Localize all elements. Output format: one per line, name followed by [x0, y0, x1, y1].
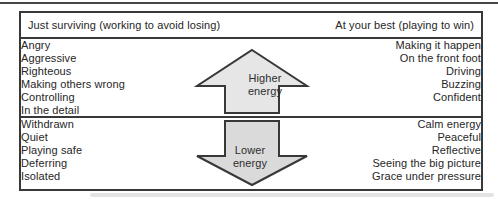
higher-energy-label: Higher energy	[225, 72, 305, 98]
list-item: Reflective	[372, 144, 481, 157]
header-at-your-best: At your best (playing to win)	[335, 19, 474, 31]
list-item: Peaceful	[372, 131, 481, 144]
list-item: In the detail	[21, 104, 125, 117]
list-item: Quiet	[21, 131, 82, 144]
list-item: Playing safe	[21, 144, 82, 157]
list-item: On the front foot	[396, 52, 481, 65]
list-item: Making others wrong	[21, 78, 125, 91]
lower-energy-right-list: Calm energy Peaceful Reflective Seeing t…	[372, 118, 481, 189]
list-item: Confident	[396, 91, 481, 104]
top-rule-divider	[0, 2, 498, 4]
list-item: Grace under pressure	[372, 170, 481, 183]
lower-energy-left-list: Withdrawn Quiet Playing safe Deferring I…	[21, 118, 82, 189]
figure-frame: Just surviving (working to avoid losing)…	[19, 11, 483, 191]
list-item: Controlling	[21, 91, 125, 104]
header-just-surviving: Just surviving (working to avoid losing)	[28, 19, 220, 31]
lower-energy-label-line1: Lower	[210, 144, 290, 157]
list-item: Buzzing	[396, 78, 481, 91]
higher-energy-left-list: Angry Aggressive Righteous Making others…	[21, 39, 125, 116]
higher-energy-right-list: Making it happen On the front foot Drivi…	[396, 39, 481, 116]
list-item: Righteous	[21, 65, 125, 78]
list-item: Seeing the big picture	[372, 157, 481, 170]
list-item: Angry	[21, 39, 125, 52]
lower-energy-label-line2: energy	[210, 157, 290, 170]
list-item: Aggressive	[21, 52, 125, 65]
higher-energy-label-line2: energy	[225, 85, 305, 98]
figure-energy-diagram: Just surviving (working to avoid losing)…	[0, 0, 498, 199]
list-item: Deferring	[21, 157, 82, 170]
list-item: Isolated	[21, 170, 82, 183]
list-item: Calm energy	[372, 118, 481, 131]
higher-energy-label-line1: Higher	[225, 72, 305, 85]
list-item: Making it happen	[396, 39, 481, 52]
scan-artifact	[90, 193, 494, 197]
header-row: Just surviving (working to avoid losing)…	[21, 13, 481, 39]
list-item: Driving	[396, 65, 481, 78]
lower-energy-label: Lower energy	[210, 144, 290, 170]
list-item: Withdrawn	[21, 118, 82, 131]
